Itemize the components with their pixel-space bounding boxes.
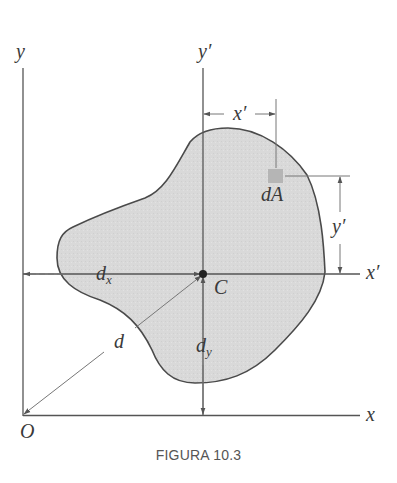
origin-label: O (20, 420, 34, 442)
area-region (57, 128, 325, 383)
parallel-axis-theorem-diagram: y x O y′ x′ x′ y′ dA C d dx dy (0, 0, 397, 483)
y-prime-dimension-label: y′ (330, 215, 346, 238)
dx-label-subscript: x (105, 272, 112, 287)
d-distance-label: d (114, 330, 125, 352)
d-vector-lower (24, 352, 104, 414)
x-prime-axis-label: x′ (365, 261, 380, 283)
x-axis-label: x (365, 403, 375, 425)
y-axis-label: y (14, 40, 25, 63)
x-prime-dimension-label: x′ (232, 102, 247, 124)
dA-element (268, 169, 283, 183)
dA-label: dA (261, 183, 284, 205)
y-prime-axis-label: y′ (196, 40, 212, 63)
figure-caption: FIGURA 10.3 (0, 447, 397, 463)
dy-label-subscript: y (204, 344, 212, 359)
centroid-point (199, 270, 207, 278)
centroid-label: C (214, 276, 228, 298)
